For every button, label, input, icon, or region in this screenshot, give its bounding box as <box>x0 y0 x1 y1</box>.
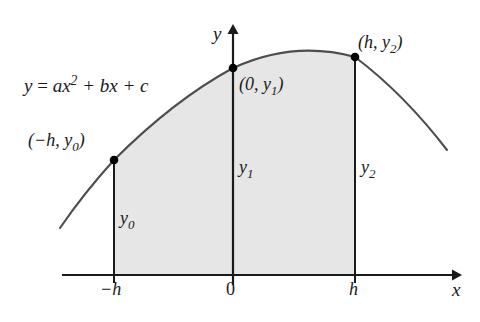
point-label-right-close: ) <box>396 32 402 52</box>
y-axis-label: y <box>213 24 221 43</box>
equation-term-b: + bx <box>82 75 118 96</box>
ordinate-label-y0-sub: 0 <box>128 217 134 232</box>
tick-label-h: h <box>349 280 358 298</box>
shaded-region <box>114 51 355 275</box>
point-marker-left <box>110 156 119 165</box>
point-label-left-open: (−h, y <box>28 130 72 150</box>
ordinate-label-y1: y1 <box>239 158 253 181</box>
point-label-left: (−h, y0) <box>28 131 85 154</box>
ordinate-label-y2-sub: 2 <box>369 166 375 181</box>
equation-equals-sign: = <box>37 75 48 96</box>
ordinate-label-y1-sub: 1 <box>247 166 253 181</box>
x-axis-label: x <box>452 280 460 299</box>
ordinate-label-y0-base: y <box>120 208 128 228</box>
ordinate-label-y2: y2 <box>361 158 375 181</box>
equation-term-a: ax <box>53 75 71 96</box>
point-label-left-close: ) <box>79 130 85 150</box>
parabola-figure: y = ax2 + bx + c (−h, y0) (0, y1) (h, y2… <box>0 0 480 322</box>
point-label-right: (h, y2) <box>358 33 402 56</box>
ordinate-label-y1-base: y <box>239 157 247 177</box>
ordinate-label-y0: y0 <box>120 209 134 232</box>
y-axis-arrowhead <box>228 24 239 34</box>
tick-label-zero: 0 <box>226 280 235 298</box>
point-label-mid: (0, y1) <box>239 75 283 98</box>
ordinate-label-y2-base: y <box>361 157 369 177</box>
equation-label: y = ax2 + bx + c <box>24 74 148 95</box>
equation-term-c: + c <box>122 75 148 96</box>
point-label-mid-open: (0, y <box>239 74 271 94</box>
point-label-right-open: (h, y <box>358 32 390 52</box>
tick-label-negative-h: −h <box>100 280 121 298</box>
point-label-mid-close: ) <box>277 74 283 94</box>
point-marker-mid <box>229 64 238 73</box>
